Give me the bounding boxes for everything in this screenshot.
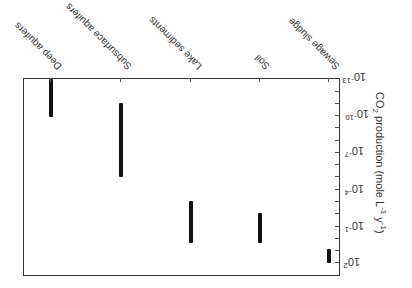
y-tick-label: 10-4 (345, 183, 364, 197)
x-tick (259, 78, 260, 82)
y-tick-label: 10-13 (342, 71, 366, 85)
plot-frame (23, 78, 340, 276)
y-tick-label: 10-7 (345, 145, 364, 159)
y-tick (335, 262, 339, 263)
y-tick (335, 176, 339, 177)
y-tick-label: 10-1 (345, 220, 364, 234)
y-tick (335, 250, 339, 251)
category-label-deep-aquifers: Deep aquifers (12, 20, 64, 72)
bar-sewage-sludge (327, 249, 331, 263)
bar-deep-aquifers (49, 79, 53, 117)
y-tick (335, 238, 339, 239)
chart-figure: 10-13 10-10 10-7 10-4 10-1 102 CO2 produ… (0, 0, 412, 288)
category-label-lake-sediments: Lake sediments (146, 15, 203, 72)
x-tick (190, 78, 191, 82)
y-tick (335, 213, 339, 214)
y-tick (335, 91, 339, 92)
y-axis-title: CO2 production (mole L-1 y-1) (371, 92, 388, 234)
y-tick (335, 226, 339, 227)
y-tick (335, 103, 339, 104)
y-tick-label: 102 (343, 256, 360, 270)
y-tick (335, 201, 339, 202)
y-tick-label: 10-10 (345, 108, 369, 122)
x-tick (120, 78, 121, 82)
x-tick (328, 78, 329, 82)
bar-lake-sediments (189, 201, 193, 243)
category-label-soil: Soil (252, 52, 272, 72)
y-tick (335, 189, 339, 190)
category-label-sewage-sludge: Sewage sludge (286, 16, 342, 72)
y-tick (335, 164, 339, 165)
y-tick (335, 152, 339, 153)
category-label-subsurface-aquifers: Subsurface aquifers (63, 1, 134, 72)
bar-soil (258, 213, 262, 243)
x-tick (50, 78, 51, 82)
y-tick (335, 127, 339, 128)
y-tick (335, 115, 339, 116)
y-tick (335, 140, 339, 141)
bar-subsurface-aquifers (119, 103, 123, 177)
